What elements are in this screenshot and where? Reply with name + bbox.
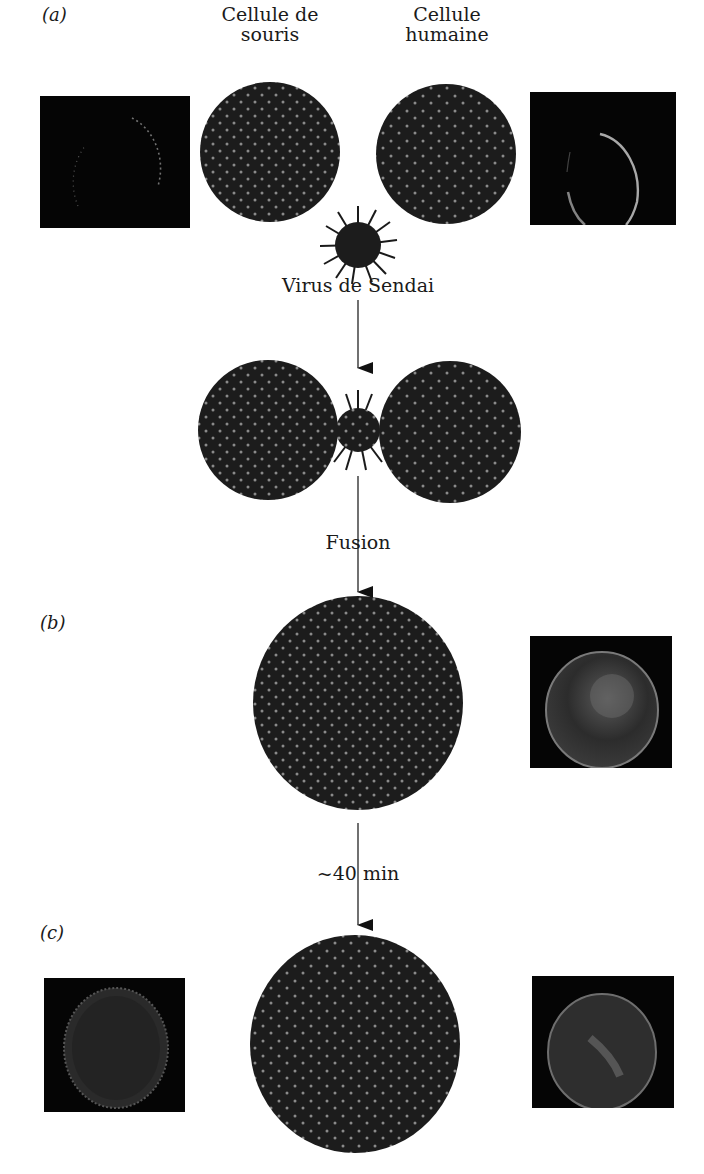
mouse-cell [200, 82, 340, 222]
hybrid-cell-b [253, 596, 463, 810]
hybrid-cell-c [250, 935, 460, 1153]
fusing-cells [198, 360, 521, 503]
diagram-canvas [0, 0, 704, 1174]
human-cell [376, 84, 516, 224]
sendai-virus-icon [320, 206, 397, 284]
